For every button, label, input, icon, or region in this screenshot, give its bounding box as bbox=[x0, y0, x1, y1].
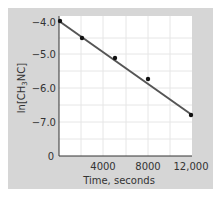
data-point bbox=[189, 113, 193, 117]
x-tick-label: 4000 bbox=[90, 161, 115, 172]
y-tick-label: −4.0 bbox=[32, 17, 56, 28]
x-tick-label: 12,000 bbox=[174, 161, 209, 172]
chart: −4.0 −5.0 −6.0 −7.0 0 4000 8000 12,000 T… bbox=[0, 0, 223, 201]
y-tick-label-zero: 0 bbox=[48, 151, 54, 162]
data-point bbox=[80, 36, 84, 40]
x-axis-label: Time, seconds bbox=[82, 175, 155, 186]
data-point bbox=[113, 56, 117, 60]
y-axis-label: ln[CH3NC] bbox=[16, 63, 29, 113]
x-tick-label: 8000 bbox=[135, 161, 160, 172]
y-tick-label: −5.0 bbox=[32, 49, 56, 60]
data-point bbox=[58, 19, 62, 23]
data-point bbox=[146, 77, 150, 81]
y-tick-label: −7.0 bbox=[32, 117, 56, 128]
y-tick-label: −6.0 bbox=[32, 83, 56, 94]
